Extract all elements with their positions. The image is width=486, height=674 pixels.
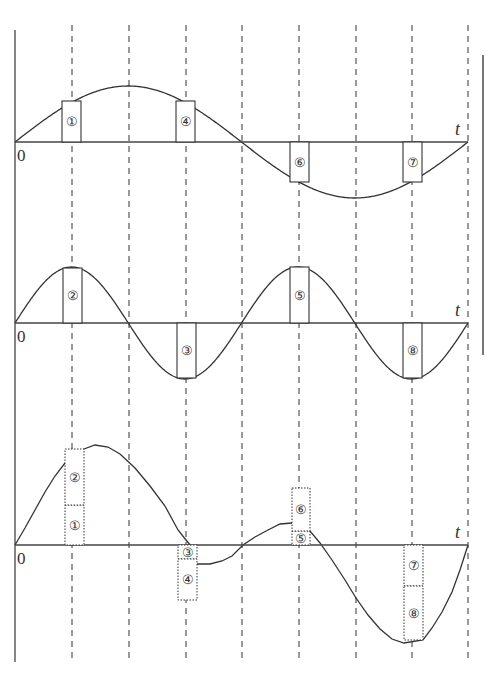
wave-superposition-diagram: ①④⑥⑦0t ②③⑤⑧0t ①②③④⑤⑥⑦⑧0t [0,0,486,674]
middle-bar-1: ② [63,268,82,323]
bottom-bar-1: ① [65,505,84,545]
bar-number-label: ① [69,518,81,533]
bar-number-label: ③ [182,545,194,560]
bottom-bar-8: ⑧ [404,586,423,640]
bottom-t-axis-label: t [455,522,461,542]
top-bar-2: ④ [176,101,195,142]
middle-bar-2: ③ [177,323,196,378]
bottom-bar-2: ② [65,449,84,505]
bar-number-label: ⑥ [294,155,306,170]
bottom-bar-3: ③ [178,545,197,560]
middle-bar-3: ⑤ [290,267,309,323]
bar-number-label: ② [67,288,79,303]
bar-number-label: ① [66,114,78,129]
middle-origin-label: 0 [17,327,26,346]
bar-number-label: ④ [182,572,194,587]
bottom-bar-6: ⑥ [292,488,310,531]
top-bar-1: ① [62,101,81,142]
bar-number-label: ⑤ [295,531,307,546]
bar-number-label: ⑦ [407,155,419,170]
bar-number-label: ⑧ [408,606,420,621]
bar-number-label: ③ [181,343,193,358]
bar-number-label: ④ [180,114,192,129]
bar-number-label: ⑦ [408,558,420,573]
middle-bar-4: ⑧ [403,323,422,378]
top-bar-3: ⑥ [290,142,309,182]
bar-number-label: ② [69,470,81,485]
middle-t-axis-label: t [455,300,461,320]
bottom-origin-label: 0 [17,549,26,568]
bottom-bar-5: ⑤ [292,531,310,546]
bottom-bar-7: ⑦ [404,545,423,586]
top-origin-label: 0 [17,146,26,165]
bar-number-label: ⑤ [294,288,306,303]
bottom-bar-4: ④ [178,559,197,600]
top-t-axis-label: t [455,119,461,139]
top-bar-4: ⑦ [403,142,422,182]
bar-number-label: ⑥ [295,502,307,517]
bar-number-label: ⑧ [407,343,419,358]
